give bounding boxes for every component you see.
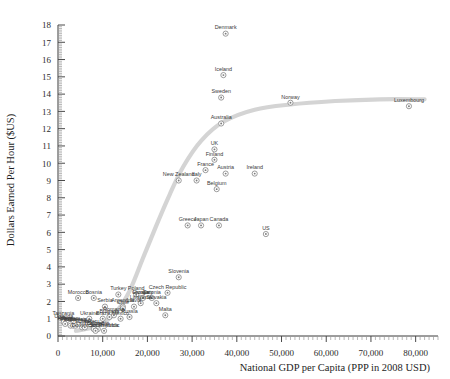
y-tick-label: 7: [47, 210, 52, 220]
point-marker-core: [225, 33, 227, 35]
plot-canvas: 010,00020,00030,00040,00050,00060,00070,…: [0, 0, 450, 379]
data-point: Japan: [194, 216, 209, 228]
point-marker-core: [95, 330, 97, 332]
data-point: Turkey: [110, 285, 127, 297]
point-marker-core: [129, 316, 131, 318]
x-tick-label: 70,000: [359, 348, 384, 358]
x-tick-label: 50,000: [269, 348, 294, 358]
data-point: Belgium: [207, 180, 227, 192]
x-tick-label: 80,000: [403, 348, 428, 358]
point-marker-core: [265, 233, 267, 235]
point-label: Slovakia: [146, 294, 166, 300]
point-marker-core: [167, 292, 169, 294]
y-tick-label: 18: [42, 20, 52, 30]
point-label: Morocco: [68, 289, 89, 295]
data-point: Morocco: [68, 289, 89, 301]
point-label: Chile: [117, 299, 129, 305]
point-label: Australia: [211, 114, 232, 120]
x-tick-label: 20,000: [135, 348, 160, 358]
point-label: UK: [211, 140, 219, 146]
point-label: Denmark: [215, 24, 237, 30]
data-point: Sweden: [211, 88, 230, 100]
y-tick-label: 13: [42, 107, 52, 117]
point-marker-core: [196, 180, 198, 182]
point-label: Norway: [281, 94, 300, 100]
point-marker-core: [93, 297, 95, 299]
point-label: Austria: [217, 164, 234, 170]
point-marker-core: [216, 188, 218, 190]
x-tick-label: 60,000: [314, 348, 339, 358]
data-point: Slovenia: [168, 268, 189, 280]
point-label: Iceland: [215, 66, 232, 72]
point-marker-core: [220, 97, 222, 99]
data-point: Malta: [159, 306, 172, 318]
point-label: Brazil: [96, 310, 109, 316]
y-axis-title: Dollars Earned Per Hour ($US): [5, 113, 17, 246]
point-label: Finland: [206, 151, 224, 157]
point-marker-core: [187, 224, 189, 226]
data-point: Iceland: [215, 66, 232, 78]
point-label: Canada: [209, 216, 228, 222]
point-label: Belgium: [207, 180, 227, 186]
y-tick-label: 12: [42, 124, 51, 134]
x-tick-label: 40,000: [224, 348, 249, 358]
scatter-chart: 010,00020,00030,00040,00050,00060,00070,…: [0, 0, 450, 379]
trend-curve: [76, 99, 425, 331]
point-marker-core: [117, 294, 119, 296]
point-marker-core: [408, 105, 410, 107]
point-label: France: [197, 161, 214, 167]
point-label: Ireland: [246, 164, 262, 170]
point-label: Italy: [192, 171, 202, 177]
point-marker-core: [178, 180, 180, 182]
x-axis-title: National GDP per Capita (PPP in 2008 USD…: [240, 362, 431, 374]
data-point: Ireland: [246, 164, 262, 176]
point-label: Turkey: [110, 285, 127, 291]
point-label: Sweden: [211, 88, 230, 94]
point-label: Japan: [194, 216, 209, 222]
y-tick-label: 8: [47, 193, 52, 203]
point-label: Mexico: [112, 310, 129, 316]
y-tick-label: 2: [47, 297, 52, 307]
y-tick-label: 0: [47, 331, 52, 341]
point-marker-core: [77, 297, 79, 299]
point-marker-core: [254, 173, 256, 175]
data-point: Mexico: [112, 310, 129, 322]
trend-line: [76, 99, 425, 331]
data-point: New Zealand: [163, 171, 195, 183]
y-tick-label: 1: [47, 314, 52, 324]
y-tick-label: 14: [42, 89, 52, 99]
point-marker-core: [200, 224, 202, 226]
data-point: Luxembourg: [394, 97, 424, 109]
data-point: Italy: [192, 171, 202, 183]
point-marker-core: [120, 318, 122, 320]
point-marker-core: [64, 323, 66, 325]
x-tick-label: 10,000: [90, 348, 115, 358]
point-marker-core: [103, 330, 105, 332]
point-label: Luxembourg: [394, 97, 424, 103]
y-tick-label: 4: [47, 262, 52, 272]
point-marker-core: [220, 123, 222, 125]
point-label: Malta: [159, 306, 172, 312]
y-tick-label: 11: [42, 141, 51, 151]
data-point: Denmark: [215, 24, 237, 36]
y-tick-label: 10: [42, 159, 52, 169]
data-point: Canada: [209, 216, 228, 228]
point-marker-core: [108, 316, 110, 318]
point-marker-core: [225, 173, 227, 175]
point-marker-core: [205, 169, 207, 171]
point-label: South Africa: [90, 322, 119, 328]
y-tick-label: 9: [47, 176, 52, 186]
data-point: Slovakia: [146, 294, 166, 306]
y-tick-label: 15: [42, 72, 52, 82]
data-point: Australia: [211, 114, 232, 126]
data-points: DenmarkIcelandSwedenNorwayLuxembourgAust…: [53, 24, 424, 333]
point-label: New Zealand: [163, 171, 195, 177]
y-tick-label: 17: [42, 38, 52, 48]
point-marker-core: [222, 74, 224, 76]
data-point: US: [262, 225, 270, 237]
y-tick-label: 16: [42, 55, 52, 65]
point-label: Slovenia: [168, 268, 189, 274]
y-tick-label: 3: [47, 279, 52, 289]
axes: [58, 25, 438, 342]
x-tick-label: 30,000: [180, 348, 205, 358]
